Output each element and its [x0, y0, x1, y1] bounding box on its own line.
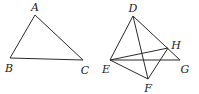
segment-DE — [110, 16, 133, 60]
point-label-e: E — [102, 64, 110, 75]
point-label-b: B — [5, 63, 13, 74]
segment-EF — [110, 60, 148, 79]
point-label-a: A — [31, 2, 39, 13]
figure-defgh — [110, 16, 180, 79]
point-label-d: D — [129, 3, 138, 14]
segment-AB — [10, 15, 35, 58]
point-label-h: H — [171, 40, 181, 51]
diagram-lines — [0, 0, 199, 94]
segment-BC — [10, 58, 83, 60]
geometry-diagram: ABCDEFGH — [0, 0, 199, 94]
segment-FH — [148, 48, 168, 79]
segment-DF — [133, 16, 148, 79]
segment-AC — [35, 15, 83, 60]
point-label-c: C — [81, 65, 89, 76]
point-label-f: F — [144, 83, 152, 94]
triangle-abc — [10, 15, 83, 60]
segment-EH — [110, 48, 168, 60]
point-label-g: G — [181, 64, 190, 75]
